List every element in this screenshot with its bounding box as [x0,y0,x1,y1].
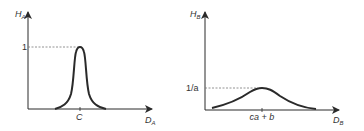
x-label-a: DA [145,115,156,126]
y-label-b: HB [190,9,201,20]
x-tick-c: C [76,112,83,122]
chart-a: HA 1 C DA [15,9,156,126]
x-tick-ca-plus-b: ca + b [250,112,275,122]
y-tick-1-over-a: 1/a [186,83,199,93]
x-label-b: DB [333,115,344,126]
figure: HA 1 C DA HB 1/a ca + b DB [0,0,364,131]
charts-svg: HA 1 C DA HB 1/a ca + b DB [0,0,364,131]
y-tick-1: 1 [22,42,27,52]
curve-b [212,88,316,109]
y-label-a: HA [15,9,26,20]
curve-a [55,47,106,109]
chart-b: HB 1/a ca + b DB [186,9,344,126]
